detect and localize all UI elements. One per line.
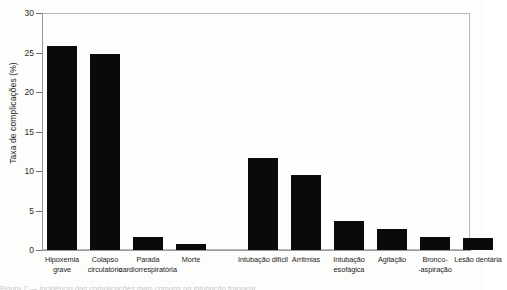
bar — [334, 221, 364, 250]
bar — [133, 237, 163, 250]
y-tick-label: 15 — [0, 128, 34, 137]
y-tick-mark — [36, 92, 42, 93]
y-tick-mark — [36, 171, 42, 172]
x-tick-label: Lesão dentária — [446, 255, 507, 265]
cut-off-caption: Figura 2 — Incidência das complicações m… — [0, 283, 484, 290]
y-tick-mark — [36, 13, 42, 14]
bar — [47, 46, 77, 250]
y-axis-line — [42, 13, 43, 251]
y-tick-label: 20 — [0, 88, 34, 97]
x-tick-label: Morte — [159, 255, 223, 265]
y-tick-label: 0 — [0, 246, 34, 255]
bar — [463, 238, 493, 250]
y-tick-mark — [36, 132, 42, 133]
y-tick-label: 25 — [0, 49, 34, 58]
y-tick-mark — [36, 211, 42, 212]
y-axis-title: Taxa de complicações (%) — [8, 53, 18, 173]
bar — [248, 158, 278, 250]
x-axis-line — [42, 250, 471, 251]
y-tick-mark — [36, 250, 42, 251]
y-tick-label: 10 — [0, 167, 34, 176]
y-tick-mark — [36, 53, 42, 54]
bar — [420, 237, 450, 250]
y-tick-label: 30 — [0, 9, 34, 18]
bar — [90, 54, 120, 250]
y-tick-label: 5 — [0, 207, 34, 216]
bar — [176, 244, 206, 250]
bar — [291, 175, 321, 250]
bar — [377, 229, 407, 250]
